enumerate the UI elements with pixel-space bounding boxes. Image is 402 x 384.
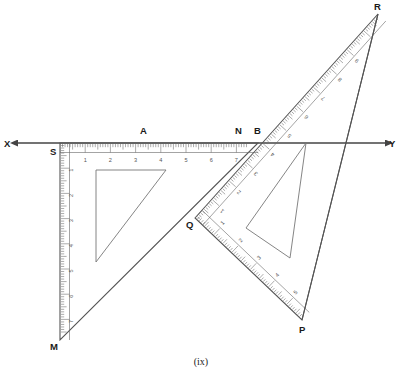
construction-diagram: 1234567 1234567 123456789 [0, 0, 402, 384]
ruler-number: 2 [236, 189, 242, 196]
ruler-numbers-qr: 123456789 [219, 58, 360, 215]
ruler-number: 5 [68, 269, 74, 272]
point-label-S: S [50, 146, 56, 157]
point-label-B: B [254, 125, 261, 136]
ruler-number: 2 [109, 157, 112, 163]
figure-caption: (ix) [0, 356, 402, 367]
ruler-number: 3 [256, 254, 262, 260]
right-set-square-cutout [246, 143, 306, 258]
ruler-number: 9 [353, 58, 359, 65]
ruler-numbers-horizontal: 1234567 [84, 157, 238, 163]
ruler-number: 5 [184, 157, 187, 163]
ruler-number: 6 [210, 157, 213, 163]
ruler-number: 8 [337, 76, 343, 83]
ruler-number: 3 [134, 157, 137, 163]
right-ruler-qp [196, 210, 310, 316]
ruler-numbers-vertical: 1234567 [68, 169, 74, 323]
ruler-number: 7 [320, 95, 326, 102]
point-label-R: R [374, 1, 381, 12]
ruler-number: 1 [68, 169, 74, 172]
point-label-P: P [299, 324, 306, 335]
ruler-number: 1 [219, 208, 225, 215]
ruler-number: 4 [269, 152, 275, 159]
left-set-square: 1234567 1234567 [60, 143, 258, 340]
point-label-Q: Q [186, 219, 193, 230]
ruler-number: 4 [159, 157, 162, 163]
geometry-figure: 1234567 1234567 123456789 [0, 0, 402, 384]
ruler-number: 7 [235, 157, 238, 163]
ruler-number: 5 [286, 133, 292, 140]
point-label-A: A [140, 125, 147, 136]
construction-line-pr [302, 14, 378, 320]
ruler-number: 5 [292, 289, 298, 295]
ruler-number: 7 [68, 320, 74, 323]
ruler-numbers-qp: 12345 [219, 220, 298, 296]
ruler-number: 4 [274, 272, 280, 278]
ruler-number: 6 [303, 114, 309, 121]
ruler-number: 1 [219, 220, 225, 226]
ruler-ticks-horizontal [60, 144, 246, 153]
point-label-X: X [4, 138, 11, 149]
ruler-number: 1 [84, 157, 87, 163]
ruler-number: 2 [237, 237, 243, 243]
ruler-number: 3 [253, 170, 259, 177]
ruler-number: 2 [68, 194, 74, 197]
ruler-number: 6 [68, 295, 74, 298]
left-horizontal-ruler [60, 144, 258, 153]
ruler-number: 4 [68, 244, 74, 247]
point-label-Y: Y [389, 138, 396, 149]
left-set-square-outline [60, 143, 258, 340]
point-label-M: M [50, 341, 58, 352]
right-ruler-qr [196, 18, 386, 225]
left-set-square-cutout [96, 170, 166, 262]
point-label-N: N [235, 125, 242, 136]
ruler-number: 3 [68, 219, 74, 222]
right-set-square: 123456789 12345 [195, 14, 386, 320]
